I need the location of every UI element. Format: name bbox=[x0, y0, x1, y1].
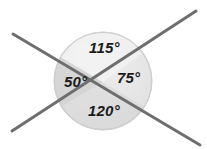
angle-label-top: 115° bbox=[89, 40, 120, 55]
angle-diagram-figure: 115° 50° 75° 120° bbox=[0, 0, 207, 149]
diagram-canvas bbox=[0, 0, 207, 149]
angle-label-bottom: 120° bbox=[88, 103, 120, 118]
angle-label-left: 50° bbox=[64, 74, 87, 89]
angle-label-right: 75° bbox=[117, 70, 140, 85]
